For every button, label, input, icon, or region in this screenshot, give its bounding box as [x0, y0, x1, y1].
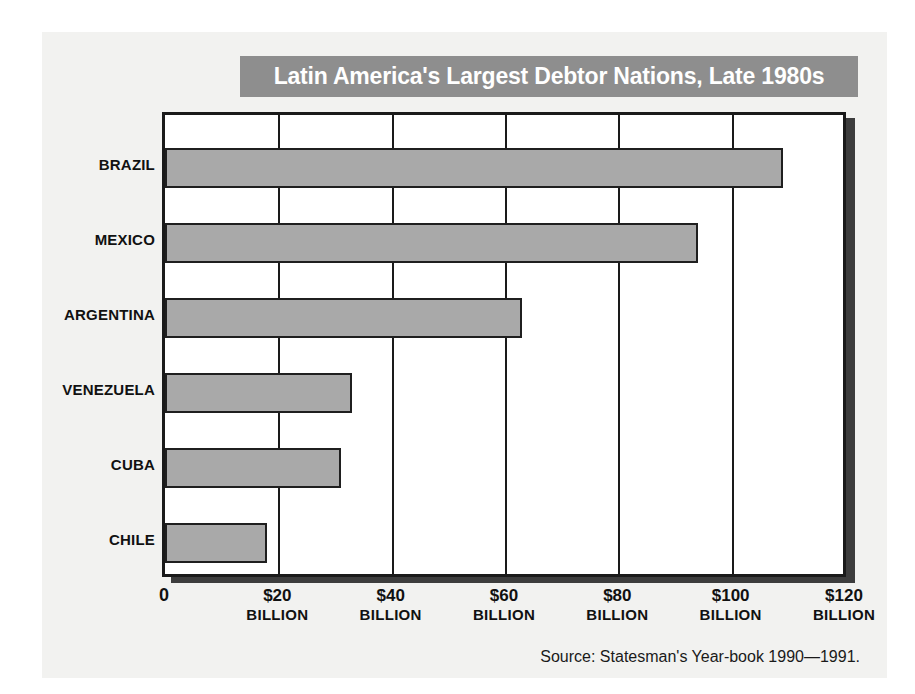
bar-venezuela — [165, 373, 352, 413]
bar-brazil — [165, 148, 783, 188]
category-label-argentina: ARGENTINA — [5, 306, 155, 323]
category-label-brazil: BRAZIL — [5, 156, 155, 173]
x-tick-0: 0 — [104, 586, 224, 605]
x-tick-unit: BILLION — [784, 605, 904, 624]
x-tick-value: 0 — [159, 585, 169, 605]
bar-row — [165, 448, 843, 488]
bar-argentina — [165, 298, 522, 338]
category-axis-labels: BRAZILMEXICOARGENTINAVENEZUELACUBACHILE — [0, 112, 155, 577]
x-tick-value: $120 — [825, 586, 863, 605]
category-label-mexico: MEXICO — [5, 231, 155, 248]
category-label-cuba: CUBA — [5, 456, 155, 473]
x-tick-100: $100BILLION — [671, 586, 791, 624]
bar-mexico — [165, 223, 698, 263]
x-tick-value: $40 — [376, 586, 404, 605]
x-tick-40: $40BILLION — [331, 586, 451, 624]
bar-row — [165, 523, 843, 563]
category-label-chile: CHILE — [5, 531, 155, 548]
chart-plot-frame — [162, 112, 846, 577]
bar-row — [165, 298, 843, 338]
source-note: Source: Statesman's Year-book 1990—1991. — [0, 648, 860, 666]
bar-chile — [165, 523, 267, 563]
x-tick-unit: BILLION — [217, 605, 337, 624]
bar-row — [165, 148, 843, 188]
chart-title-banner: Latin America's Largest Debtor Nations, … — [240, 56, 858, 97]
x-tick-120: $120BILLION — [784, 586, 904, 624]
page-title: Latin America's Largest Debtor Nations, … — [274, 63, 825, 90]
plot-area — [165, 115, 843, 574]
x-tick-unit: BILLION — [331, 605, 451, 624]
x-tick-unit: BILLION — [557, 605, 677, 624]
bar-row — [165, 223, 843, 263]
x-tick-value: $80 — [603, 586, 631, 605]
x-tick-unit: BILLION — [444, 605, 564, 624]
x-tick-20: $20BILLION — [217, 586, 337, 624]
chart-page: Latin America's Largest Debtor Nations, … — [0, 0, 915, 694]
x-axis-tick-labels: 0$20BILLION$40BILLION$60BILLION$80BILLIO… — [0, 586, 915, 638]
bar-cuba — [165, 448, 341, 488]
x-tick-value: $20 — [263, 586, 291, 605]
x-tick-value: $100 — [712, 586, 750, 605]
bar-row — [165, 373, 843, 413]
x-tick-unit: BILLION — [671, 605, 791, 624]
category-label-venezuela: VENEZUELA — [5, 381, 155, 398]
x-tick-80: $80BILLION — [557, 586, 677, 624]
x-tick-60: $60BILLION — [444, 586, 564, 624]
x-tick-value: $60 — [490, 586, 518, 605]
